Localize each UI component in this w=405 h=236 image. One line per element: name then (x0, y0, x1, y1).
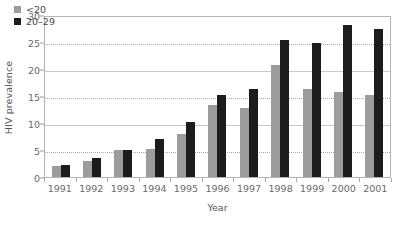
x-tick-mark (202, 178, 203, 182)
bar (280, 40, 289, 177)
bar (61, 165, 70, 177)
bar-group (327, 17, 358, 177)
bar-group (139, 17, 170, 177)
bar (208, 105, 217, 177)
x-axis-title: Year (44, 202, 391, 213)
bar (365, 95, 374, 177)
x-tick-label: 1992 (76, 183, 108, 197)
hiv-prevalence-bar-chart: HIV prevalence 051015202530 199119921993… (0, 0, 405, 236)
x-tick-label: 1991 (44, 183, 76, 197)
bar-group (202, 17, 233, 177)
y-axis-title: HIV prevalence (0, 16, 18, 178)
bar (186, 122, 195, 177)
chart-legend: <2020–29 (14, 5, 55, 26)
y-tick-label: 15 (28, 92, 40, 103)
y-axis-ticks: 051015202530 (18, 16, 44, 178)
legend-swatch-icon (14, 6, 21, 13)
legend-swatch-icon (14, 18, 21, 25)
y-axis-title-text: HIV prevalence (4, 60, 15, 133)
x-tick-mark (359, 178, 360, 182)
x-tick-label: 1996 (202, 183, 234, 197)
bar (52, 166, 61, 177)
x-tick-mark (328, 178, 329, 182)
bar (334, 92, 343, 177)
bar-groups (45, 17, 390, 177)
legend-label: <20 (26, 5, 46, 15)
x-tick-mark (391, 178, 392, 182)
x-tick-label: 1995 (170, 183, 202, 197)
x-axis-ticks: 1991199219931994199519961997199819992000… (44, 183, 391, 197)
x-tick-mark (296, 178, 297, 182)
x-tick-mark (139, 178, 140, 182)
y-tick-label: 20 (28, 65, 40, 76)
bar-group (170, 17, 201, 177)
bar-group (45, 17, 76, 177)
legend-label: 20–29 (26, 17, 55, 27)
y-tick-label: 25 (28, 38, 40, 49)
legend-item: <20 (14, 5, 55, 15)
x-tick-label: 1998 (265, 183, 297, 197)
x-tick-mark (44, 178, 45, 182)
bar (303, 89, 312, 177)
bar (92, 158, 101, 177)
bar (83, 161, 92, 177)
x-tick-label: 1999 (296, 183, 328, 197)
bar (217, 95, 226, 177)
bar (155, 139, 164, 177)
bar (271, 65, 280, 177)
x-tick-label: 2000 (328, 183, 360, 197)
x-tick-mark (107, 178, 108, 182)
bar-group (359, 17, 390, 177)
x-tick-label: 1994 (139, 183, 171, 197)
bar (177, 134, 186, 177)
x-tick-mark (233, 178, 234, 182)
x-tick-mark (76, 178, 77, 182)
bar (240, 108, 249, 177)
bar (146, 149, 155, 177)
bar (123, 150, 132, 177)
bar-group (108, 17, 139, 177)
y-tick-label: 10 (28, 119, 40, 130)
bar (114, 150, 123, 177)
plot-area (44, 16, 391, 178)
bar-group (296, 17, 327, 177)
bar (343, 25, 352, 177)
bar-group (76, 17, 107, 177)
bar (374, 29, 383, 177)
bar (249, 89, 258, 177)
x-tick-label: 2001 (359, 183, 391, 197)
bar (312, 43, 321, 177)
x-tick-label: 1997 (233, 183, 265, 197)
x-tick-mark (170, 178, 171, 182)
legend-item: 20–29 (14, 17, 55, 27)
bar-group (233, 17, 264, 177)
x-tick-label: 1993 (107, 183, 139, 197)
bar-group (265, 17, 296, 177)
x-tick-mark (265, 178, 266, 182)
